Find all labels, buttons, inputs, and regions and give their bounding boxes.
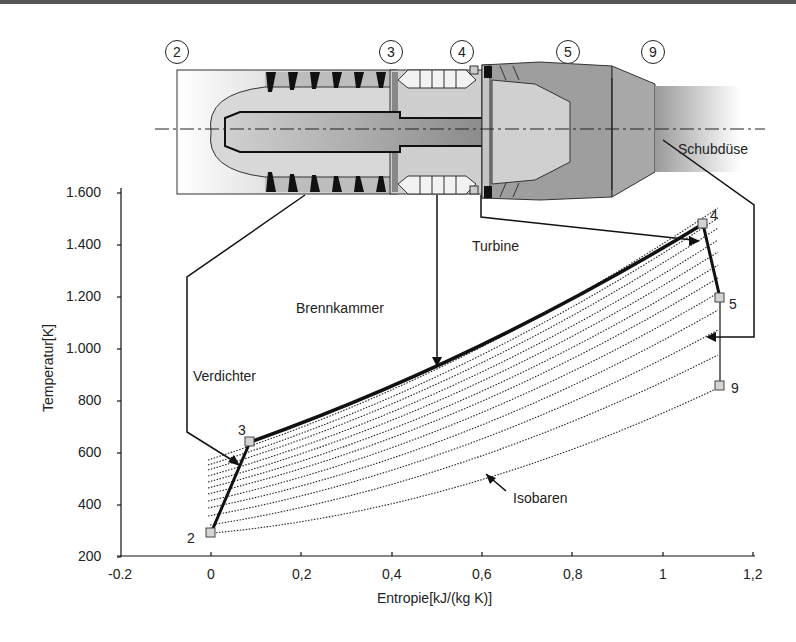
- x-tick-0.8: 0,8: [563, 566, 582, 582]
- nozzle-label: Schubdüse: [678, 141, 748, 157]
- point-4-marker: [698, 219, 707, 228]
- engine-cross-section: [155, 62, 765, 200]
- y-tick-1400: 1.400: [66, 236, 101, 252]
- station-4-circle: 4: [450, 40, 474, 64]
- station-9-circle: 9: [641, 40, 665, 64]
- y-tick-400: 400: [78, 496, 101, 512]
- y-tick-1600: 1.600: [66, 184, 101, 200]
- y-tick-1200: 1.200: [66, 288, 101, 304]
- x-tick-1.2: 1,2: [743, 566, 762, 582]
- y-tick-1000: 1.000: [66, 340, 101, 356]
- x-tick-0: 0: [207, 566, 215, 582]
- point-9-marker: [715, 381, 724, 390]
- point-3-marker: [245, 437, 254, 446]
- verdichter-label: Verdichter: [193, 368, 256, 384]
- point-5-marker: [715, 293, 724, 302]
- station-3-circle: 3: [379, 40, 403, 64]
- station-5-circle: 5: [556, 40, 580, 64]
- isobar-arrow-line: [486, 474, 506, 491]
- x-axis-title: Entropie[kJ/(kg K)]: [377, 590, 492, 606]
- point-9-label: 9: [731, 380, 739, 396]
- x-tick-neg0.2: -0.2: [108, 566, 132, 582]
- arrowheads: [228, 236, 716, 484]
- x-tick-1: 1: [659, 566, 667, 582]
- cycle-path: [211, 224, 720, 533]
- brennkammer-label: Brennkammer: [296, 300, 384, 316]
- y-axis-title: Temperatur[K]: [40, 318, 56, 418]
- point-2-marker: [206, 528, 215, 537]
- y-tick-200: 200: [78, 548, 101, 564]
- isobaren-label: Isobaren: [513, 490, 567, 506]
- x-tick-0.6: 0,6: [472, 566, 491, 582]
- point-5-label: 5: [729, 296, 737, 312]
- x-tick-0.4: 0,4: [382, 566, 401, 582]
- station-2-circle: 2: [165, 40, 189, 64]
- turbine-label: Turbine: [472, 238, 519, 254]
- state-point-markers: [206, 219, 724, 537]
- y-tick-800: 800: [78, 392, 101, 408]
- jet-engine-ts-diagram: [0, 0, 796, 642]
- point-4-label: 4: [710, 207, 718, 223]
- y-tick-600: 600: [78, 444, 101, 460]
- isobar-curves: [208, 208, 718, 533]
- point-3-label: 3: [238, 422, 246, 438]
- point-2-label: 2: [187, 530, 195, 546]
- x-tick-0.2: 0,2: [292, 566, 311, 582]
